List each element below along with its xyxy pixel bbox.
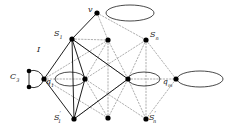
label-v-base: v <box>88 5 93 14</box>
label-v: v <box>88 6 93 14</box>
node-S1prime[interactable] <box>71 116 76 121</box>
ellipse-layer <box>55 5 223 87</box>
edge-solid-s1-q1 <box>44 39 72 79</box>
edge-dotted-smid-midright <box>108 40 128 79</box>
edge-dotted-smid-midleft <box>85 40 108 79</box>
edge-solid-v-s1 <box>72 13 97 39</box>
edge-dotted-v-smid <box>97 13 108 40</box>
node-layer <box>27 10 179 121</box>
label-Sn-sub: n <box>156 35 159 41</box>
edge-dotted-v-sn <box>97 13 146 40</box>
label-S1prime-mark: ′ <box>59 110 60 118</box>
edge-solid-midleft-s1prime <box>74 79 85 119</box>
node-mid-left[interactable] <box>82 76 87 81</box>
node-Sprime-mid[interactable] <box>105 115 110 120</box>
label-q1: q1 <box>46 78 54 88</box>
node-qm[interactable] <box>173 76 178 81</box>
label-S1prime: S′1 <box>54 111 61 123</box>
node-c3-top[interactable] <box>27 69 32 74</box>
label-S1-sub: 1 <box>60 34 63 40</box>
node-Sn[interactable] <box>143 37 148 42</box>
node-v[interactable] <box>94 10 99 15</box>
label-Sn: Sn <box>150 31 159 41</box>
figure-canvas: v S1 Sn I C3 q1 qm S′1 S′n <box>0 0 225 137</box>
edge-dotted-q1-smid <box>44 40 108 79</box>
edge-dotted-s1-smid <box>72 39 108 40</box>
label-Sn-base: S <box>150 30 155 39</box>
label-q1-sub: 1 <box>51 83 54 88</box>
label-C3: C3 <box>10 73 19 83</box>
label-I: I <box>37 46 40 54</box>
label-Snprime-sub: n <box>153 118 156 124</box>
node-S1[interactable] <box>69 36 74 41</box>
label-I-base: I <box>37 45 40 54</box>
label-S1-base: S <box>54 29 59 38</box>
label-Snprime-mark: ′ <box>154 110 155 118</box>
node-Snprime[interactable] <box>143 116 148 121</box>
label-qm-sub: m <box>168 83 172 88</box>
node-mid-right[interactable] <box>125 76 130 81</box>
label-S1prime-sub: 1 <box>58 118 61 124</box>
label-Snprime: S′n <box>149 111 156 123</box>
edge-dotted-sprimemid-midleft <box>85 79 108 118</box>
ellipse-v <box>106 5 154 21</box>
edge-dotted-midleft-sn <box>85 40 146 79</box>
label-C3-sub: 3 <box>16 77 19 83</box>
edge-dotted-sprimemid-midright <box>108 79 128 118</box>
node-S-mid[interactable] <box>105 37 110 42</box>
label-S1: S1 <box>54 30 63 40</box>
ellipse-qm <box>177 71 223 87</box>
edge-solid-s1prime-midright <box>74 79 128 119</box>
label-qm: qm <box>163 78 172 88</box>
graph-svg <box>0 0 225 137</box>
node-c3-bottom[interactable] <box>27 85 32 90</box>
edge-dotted-sn-qm <box>146 40 176 79</box>
